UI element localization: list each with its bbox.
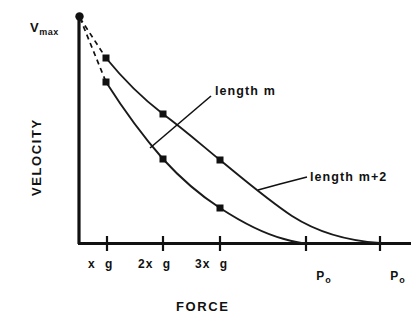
annotation-length-m-plus-2: length m+2 (310, 171, 387, 184)
y-axis-title: VELOCITY (30, 118, 43, 196)
vmax-main-text: V (30, 20, 39, 35)
chart-plot-area (0, 0, 417, 324)
x-tick-label-1: x g (88, 258, 113, 270)
data-point (103, 79, 110, 86)
vmax-subscript-text: max (39, 27, 59, 37)
x-tick-label-2: 2x g (138, 258, 171, 270)
data-point (217, 205, 224, 212)
x-axis-title: FORCE (176, 300, 230, 313)
leader-line-length-m-plus-2 (258, 177, 307, 190)
data-point (160, 156, 167, 163)
vmax-data-point (75, 12, 83, 20)
y-axis-max-label: Vmax (14, 8, 59, 47)
data-markers-length-m (103, 79, 224, 212)
x-tick-label-5-subscript: o (399, 275, 405, 285)
x-tick-label-4: Po (298, 258, 331, 294)
curve-length-m (106, 82, 306, 244)
x-tick-label-4-main: P (316, 269, 325, 283)
leader-line-length-m (150, 96, 211, 148)
x-tick-label-3: 3x g (195, 258, 228, 270)
figure-canvas: Vmax VELOCITY x g 2x g 3x g Po Po FORCE … (0, 0, 417, 324)
x-tick-label-4-subscript: o (325, 275, 331, 285)
data-point (103, 55, 110, 62)
data-point (160, 111, 167, 118)
x-tick-label-5-main: P (390, 269, 399, 283)
dashed-leadin-lower-curve (80, 18, 106, 82)
data-point (217, 157, 224, 164)
x-tick-label-5: Po (372, 258, 405, 294)
annotation-length-m: length m (215, 85, 276, 98)
